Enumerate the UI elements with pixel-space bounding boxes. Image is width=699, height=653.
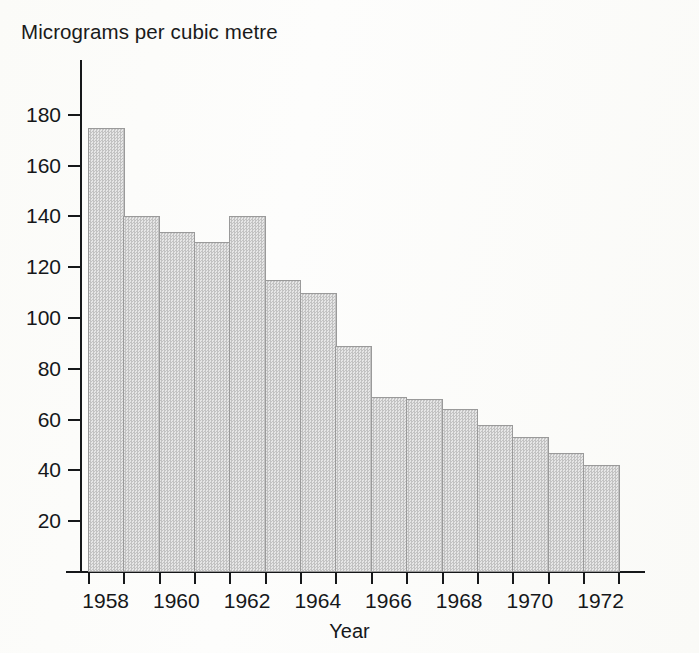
y-axis-tick-label: 60: [1, 408, 61, 432]
x-axis-tick-label: 1966: [365, 589, 412, 613]
x-axis-tick: [371, 572, 373, 584]
x-axis-tick-label: 1960: [153, 589, 200, 613]
x-axis-tick: [548, 572, 550, 584]
y-axis-tick: [68, 114, 81, 116]
x-axis-tick: [335, 572, 337, 584]
x-axis-tick: [583, 572, 585, 584]
y-axis-tick: [68, 368, 81, 370]
x-axis-tick: [618, 572, 620, 584]
y-axis-tick: [68, 165, 81, 167]
y-axis-tick: [68, 419, 81, 421]
x-axis-tick: [477, 572, 479, 584]
x-axis-tick-label: 1968: [436, 589, 483, 613]
y-axis-tick-label: 100: [1, 306, 61, 330]
bar: [229, 216, 266, 572]
bar: [477, 425, 514, 572]
y-axis-tick-label: 120: [1, 255, 61, 279]
plot-area: 20406080100120140160180 1958196019621964…: [0, 0, 699, 653]
y-axis-tick: [68, 469, 81, 471]
x-axis-tick-label: 1972: [577, 589, 624, 613]
x-axis-title: Year: [0, 620, 699, 643]
bar: [442, 409, 479, 572]
y-axis-tick-label: 20: [1, 509, 61, 533]
x-axis-tick: [123, 572, 125, 584]
x-axis-tick: [159, 572, 161, 584]
x-axis-tick-label: 1970: [507, 589, 554, 613]
y-axis-tick: [68, 266, 81, 268]
x-axis-tick-label: 1958: [82, 589, 129, 613]
x-axis-tick: [265, 572, 267, 584]
bar: [194, 242, 231, 572]
x-axis-tick: [194, 572, 196, 584]
y-axis-tick-label: 160: [1, 154, 61, 178]
x-axis-tick: [229, 572, 231, 584]
x-axis-tick: [442, 572, 444, 584]
bar: [583, 465, 620, 572]
x-axis-tick: [300, 572, 302, 584]
y-axis-tick-label: 40: [1, 458, 61, 482]
x-axis-tick: [88, 572, 90, 584]
y-axis-tick-label: 140: [1, 204, 61, 228]
x-axis-tick-label: 1964: [294, 589, 341, 613]
y-axis-tick-label: 80: [1, 357, 61, 381]
bar: [512, 437, 549, 572]
bar: [123, 216, 160, 572]
x-axis-tick-label: 1962: [224, 589, 271, 613]
bar: [335, 346, 372, 572]
bar: [406, 399, 443, 572]
chart-figure: Micrograms per cubic metre 2040608010012…: [0, 0, 699, 653]
y-axis-tick-label: 180: [1, 103, 61, 127]
bar: [300, 293, 337, 572]
bar: [548, 453, 585, 572]
x-axis-tick: [512, 572, 514, 584]
y-axis-tick: [68, 215, 81, 217]
bar: [159, 232, 196, 572]
x-axis-tick: [406, 572, 408, 584]
y-axis-tick: [68, 520, 81, 522]
bar: [88, 128, 125, 573]
bar: [265, 280, 302, 572]
y-axis-tick: [68, 317, 81, 319]
bar: [371, 397, 408, 572]
